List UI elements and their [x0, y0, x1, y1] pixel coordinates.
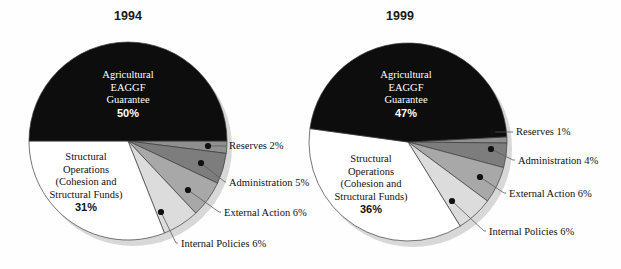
chart-title-1999: 1999 [386, 9, 414, 23]
inner-label-line: Agricultural [102, 69, 153, 80]
inner-label-percent: 47% [395, 107, 417, 119]
inner-label-line: Structural Funds) [334, 191, 408, 203]
callout-label-text: Reserves 2% [229, 140, 284, 151]
pie-chart-figure: 1994AgriculturalEAGGFGuarantee50%Structu… [0, 0, 621, 269]
callout-label-text: Internal Policies 6% [489, 226, 574, 237]
inner-label-line: Guarantee [384, 94, 427, 105]
inner-label-line: EAGGF [110, 82, 145, 93]
chart-title-1994: 1994 [114, 9, 142, 23]
inner-label-line: EAGGF [388, 82, 423, 93]
inner-label-percent: 36% [360, 203, 382, 215]
inner-label-line: Structural Funds) [49, 189, 123, 201]
callout-dot [489, 129, 495, 135]
callout-label-text: Internal Policies 6% [181, 238, 266, 249]
inner-label-line: Structural [65, 151, 106, 162]
inner-label-percent: 50% [117, 107, 139, 119]
inner-label-line: Agricultural [380, 69, 431, 80]
callout-dot [477, 174, 483, 180]
callout-label-text: Reserves 1% [516, 126, 571, 137]
callout-label-text: Administration 5% [229, 177, 309, 188]
callout-dot [185, 187, 191, 193]
callout-dot [158, 209, 164, 215]
callout-dot [198, 160, 204, 166]
callout-label-text: External Action 6% [224, 207, 307, 218]
callout-label-text: External Action 6% [509, 188, 592, 199]
inner-label-line: Operations [348, 166, 394, 177]
callout-label-text: Administration 4% [518, 155, 598, 166]
inner-label-line: Guarantee [106, 94, 149, 105]
callout-dot [449, 198, 455, 204]
callout-dot [488, 146, 494, 152]
inner-label-percent: 31% [75, 201, 97, 213]
callout-dot [205, 143, 211, 149]
inner-label-line: Structural [350, 153, 391, 164]
inner-label-line: Operations [63, 164, 109, 175]
inner-label-line: (Cohesion and [56, 176, 118, 188]
inner-label-line: (Cohesion and [341, 178, 403, 190]
